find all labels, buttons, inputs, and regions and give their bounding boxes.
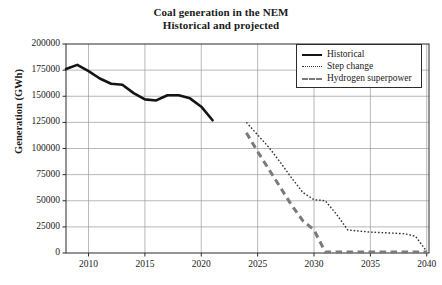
y-tick-label: 150000 — [16, 90, 60, 100]
y-tick-label: 50000 — [16, 195, 60, 205]
chart-title: Coal generation in the NEM Historical an… — [0, 6, 442, 32]
y-tick-label: 75000 — [16, 169, 60, 179]
y-axis-title: Generation (GWh) — [13, 32, 24, 192]
series-line-step-change — [246, 122, 426, 251]
legend-line-dashed-icon — [301, 73, 323, 83]
legend-label-step-change: Step change — [327, 61, 373, 72]
chart-figure: Coal generation in the NEM Historical an… — [0, 0, 442, 285]
plot-area — [0, 0, 442, 285]
x-tick-label: 2025 — [238, 259, 278, 269]
y-tick-label: 125000 — [16, 116, 60, 126]
legend-item-historical: Historical — [301, 48, 417, 60]
legend-label-hydrogen-superpower: Hydrogen superpower — [327, 73, 412, 84]
x-tick-label: 2040 — [407, 259, 442, 269]
y-tick-label: 100000 — [16, 143, 60, 153]
legend-item-hydrogen-superpower: Hydrogen superpower — [301, 72, 417, 84]
legend-line-dotted-icon — [301, 61, 323, 71]
y-tick-label: 25000 — [16, 221, 60, 231]
chart-legend: Historical Step change Hydrogen superpow… — [296, 44, 422, 88]
x-tick-label: 2020 — [181, 259, 221, 269]
chart-title-line1: Coal generation in the NEM — [0, 6, 442, 19]
x-tick-label: 2030 — [294, 259, 334, 269]
x-tick-label: 2035 — [350, 259, 390, 269]
legend-item-step-change: Step change — [301, 60, 417, 72]
series-line-historical — [66, 65, 213, 120]
y-tick-label: 0 — [16, 247, 60, 257]
legend-label-historical: Historical — [327, 49, 364, 60]
x-tick-label: 2010 — [69, 259, 109, 269]
legend-line-solid-icon — [301, 49, 323, 59]
y-tick-label: 200000 — [16, 38, 60, 48]
x-tick-label: 2015 — [125, 259, 165, 269]
chart-title-line2: Historical and projected — [0, 19, 442, 32]
y-tick-label: 175000 — [16, 64, 60, 74]
